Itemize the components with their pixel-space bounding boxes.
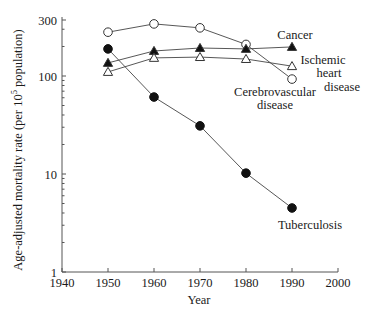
x-tick-label: 1940 [50,276,75,290]
series-label-cerebrovascular-disease: disease [257,98,294,112]
y-tick-label: 300 [38,14,57,28]
y-tick-label: 10 [45,168,58,182]
mortality-chart: 110100300 1940195019601970198019902000 C… [0,0,377,320]
x-tick-label: 2000 [326,276,351,290]
series-labels: CerebrovasculardiseaseCancerIschemichear… [234,28,360,232]
series-tuberculosis [104,45,297,213]
x-tick-label: 1950 [96,276,121,290]
data-point-marker [287,42,296,50]
x-tick-label: 1990 [280,276,305,290]
x-tick-label: 1960 [142,276,167,290]
y-axis: 110100300 [38,14,66,280]
data-point-marker [150,93,159,102]
x-tick-label: 1970 [188,276,213,290]
data-point-marker [195,43,204,51]
data-point-marker [288,204,297,213]
series-ischemic-heart-disease [103,52,296,75]
series-label-tuberculosis: Tuberculosis [278,218,342,232]
x-tick-label: 1980 [234,276,259,290]
data-point-marker [196,24,205,33]
y-tick-label: 100 [38,70,57,84]
data-point-marker [104,28,113,37]
series-layer [103,20,296,213]
series-label-cancer: Cancer [277,28,313,42]
series-label-ischemic-heart-disease: Ischemic [300,53,346,67]
data-point-marker [196,122,205,131]
series-label-ischemic-heart-disease: disease [324,80,361,94]
x-axis-title: Year [187,293,211,307]
series-label-ischemic-heart-disease: heart [317,66,343,80]
data-point-marker [288,75,297,84]
data-point-marker [150,20,159,29]
data-point-marker [104,45,113,54]
x-axis: 1940195019601970198019902000 [50,268,351,290]
y-axis-title: Age-adjusted mortality rate (per 105 pop… [9,29,25,270]
data-point-marker [195,52,204,60]
series-label-cerebrovascular-disease: Cerebrovascular [234,85,317,99]
data-point-marker [242,169,251,178]
